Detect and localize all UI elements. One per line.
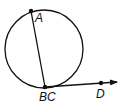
point-d — [99, 81, 103, 85]
label-d: D — [96, 87, 105, 101]
circle — [5, 10, 83, 88]
point-bc — [43, 85, 47, 89]
point-a — [29, 9, 33, 13]
geometry-diagram: A BC D — [0, 0, 120, 106]
label-a: A — [34, 11, 43, 25]
label-bc: BC — [39, 90, 56, 104]
ray-bc-d — [45, 82, 117, 87]
